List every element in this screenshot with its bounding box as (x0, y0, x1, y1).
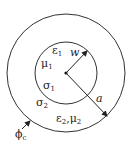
label-epsilon1: ε1 (52, 45, 62, 58)
concentric-diagram (0, 0, 132, 149)
label-mu1: μ1 (41, 58, 53, 71)
label-sigma2: σ2 (36, 97, 48, 110)
subscript: 1 (48, 63, 52, 71)
mu-symbol: μ (70, 112, 77, 125)
label-sigma1: σ1 (43, 80, 55, 93)
label-a: a (96, 93, 103, 104)
label-epsilon2-mu2: ε2,μ2 (56, 113, 81, 126)
phi-symbol: ϕ (15, 128, 23, 141)
subscript: 2 (44, 102, 48, 110)
label-w: w (70, 47, 79, 58)
subscript: c (23, 134, 27, 142)
sigma-symbol: σ (36, 96, 44, 109)
sigma-symbol: σ (43, 79, 51, 92)
subscript: 1 (58, 50, 62, 58)
phic-arrow (22, 121, 30, 129)
label-phic: ϕc (15, 129, 26, 142)
subscript: 1 (51, 85, 55, 93)
subscript: 2 (77, 118, 81, 126)
